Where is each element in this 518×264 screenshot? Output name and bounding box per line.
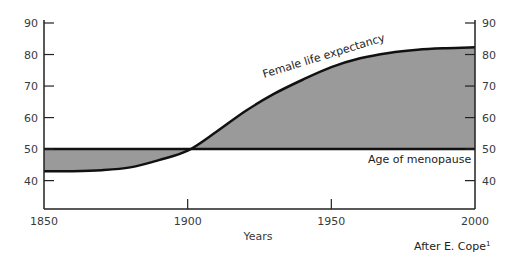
y-tick-label-left: 70 <box>24 80 38 93</box>
y-tick-label-left: 80 <box>24 49 38 62</box>
life-expectancy-chart: 4040505060607070808090901850190019502000… <box>0 0 518 264</box>
menopause-label: Age of menopause <box>368 153 471 166</box>
y-tick-label-right: 40 <box>482 175 496 188</box>
y-tick-label-left: 60 <box>24 112 38 125</box>
y-tick-label-left: 50 <box>24 143 38 156</box>
y-tick-label-right: 60 <box>482 112 496 125</box>
x-tick-label: 1900 <box>174 215 202 228</box>
x-tick-label: 1850 <box>30 215 58 228</box>
x-tick-label: 2000 <box>461 215 489 228</box>
source-credit: After E. Cope1 <box>414 240 490 253</box>
y-tick-label-right: 80 <box>482 49 496 62</box>
y-tick-label-right: 90 <box>482 17 496 30</box>
x-tick-label: 1950 <box>317 215 345 228</box>
source-superscript: 1 <box>486 240 490 248</box>
y-tick-label-left: 90 <box>24 17 38 30</box>
y-tick-label-right: 70 <box>482 80 496 93</box>
y-tick-label-left: 40 <box>24 175 38 188</box>
x-axis-title: Years <box>242 230 272 243</box>
source-text: After E. Cope <box>414 240 486 253</box>
y-tick-label-right: 50 <box>482 143 496 156</box>
